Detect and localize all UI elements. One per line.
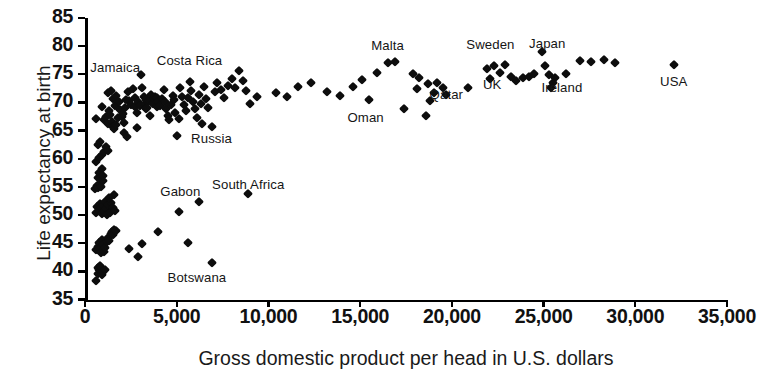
annotation-label: Oman <box>347 109 383 124</box>
y-tick <box>78 45 85 47</box>
x-axis-title: Gross domestic product per head in U.S. … <box>85 347 727 370</box>
y-tick <box>78 214 85 216</box>
y-tick <box>78 17 85 19</box>
annotation-label: USA <box>660 74 687 89</box>
data-point <box>282 92 292 102</box>
data-point <box>599 54 609 64</box>
data-point <box>182 238 192 248</box>
annotation-label: Russia <box>191 131 232 146</box>
data-point <box>412 84 422 94</box>
data-point <box>159 85 169 95</box>
annotation-label: Costa Rica <box>157 53 223 68</box>
data-point <box>305 78 315 88</box>
data-point <box>133 251 143 261</box>
annotation-label: Gabon <box>160 183 200 198</box>
data-point <box>241 86 251 96</box>
data-point <box>463 83 473 93</box>
y-tick <box>78 73 85 75</box>
data-point <box>322 87 332 97</box>
annotation-label: South Africa <box>212 177 284 192</box>
annotation-label: UK <box>483 76 502 91</box>
data-point <box>219 93 229 103</box>
data-point <box>230 83 240 93</box>
data-point <box>252 92 262 102</box>
data-point <box>575 56 585 66</box>
annotation-label: Qatar <box>430 87 463 102</box>
data-point <box>132 123 142 133</box>
y-axis-title: Life expectancy at birth <box>33 23 55 303</box>
data-point <box>293 81 303 91</box>
annotation-label: Ireland <box>541 79 582 94</box>
y-tick <box>78 270 85 272</box>
x-axis-line <box>85 300 727 303</box>
data-point <box>271 88 281 98</box>
data-point <box>399 104 409 114</box>
y-tick <box>78 101 85 103</box>
data-point <box>586 57 596 67</box>
data-point <box>610 58 620 68</box>
y-tick <box>78 158 85 160</box>
data-point <box>669 60 679 70</box>
data-point <box>137 83 147 93</box>
x-tick-label: 35,000 <box>667 305 761 328</box>
y-tick <box>78 129 85 131</box>
y-tick <box>78 242 85 244</box>
data-point <box>390 57 400 67</box>
data-point <box>234 66 244 76</box>
data-point <box>122 132 132 142</box>
annotation-label: Japan <box>529 36 565 51</box>
data-point <box>197 119 207 129</box>
data-point <box>421 111 431 121</box>
data-point <box>560 69 570 79</box>
data-point <box>171 131 181 141</box>
data-point <box>137 239 147 249</box>
y-tick <box>78 186 85 188</box>
y-axis-line <box>85 18 88 302</box>
data-point <box>153 227 163 237</box>
data-point <box>371 68 381 78</box>
data-point <box>364 95 374 105</box>
data-point <box>335 90 345 100</box>
annotation-label: Botswana <box>168 269 227 284</box>
data-point <box>245 98 255 108</box>
data-point <box>124 244 134 254</box>
data-point <box>357 75 367 85</box>
data-point <box>348 81 358 91</box>
data-point <box>164 115 174 125</box>
annotation-label: Malta <box>371 38 404 53</box>
annotation-label: Sweden <box>466 36 514 51</box>
data-point <box>206 258 216 268</box>
data-point <box>173 206 183 216</box>
annotation-label: Jamaica <box>90 59 140 74</box>
data-point <box>238 76 248 86</box>
